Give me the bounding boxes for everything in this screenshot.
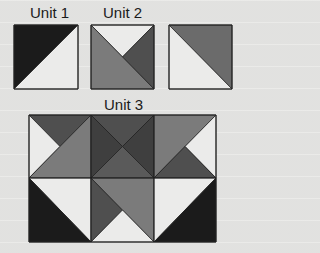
unit-3-block: [29, 115, 216, 242]
unit-1-block: [14, 25, 78, 89]
unit-2-block: [91, 25, 154, 89]
unit-triangle-block: [169, 25, 232, 89]
quilt-diagram: [0, 0, 235, 253]
